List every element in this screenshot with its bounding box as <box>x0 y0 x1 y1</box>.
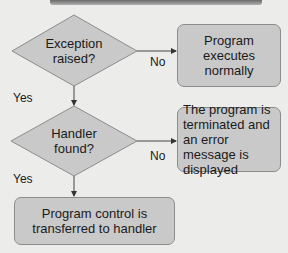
edge-label-yes-2: Yes <box>13 172 33 186</box>
edge-label-no-1: No <box>150 55 165 69</box>
edge-label-yes-1: Yes <box>13 91 33 105</box>
decision-label-handler: Handler found? <box>40 126 108 156</box>
box-program-executes: Program executes normally <box>177 24 281 87</box>
box-program-terminated: The program is terminated and an error m… <box>177 107 281 172</box>
box-control-transferred: Program control is transferred to handle… <box>14 197 175 245</box>
decision-label-exception: Exception raised? <box>34 36 114 66</box>
edge-label-no-2: No <box>150 149 165 163</box>
